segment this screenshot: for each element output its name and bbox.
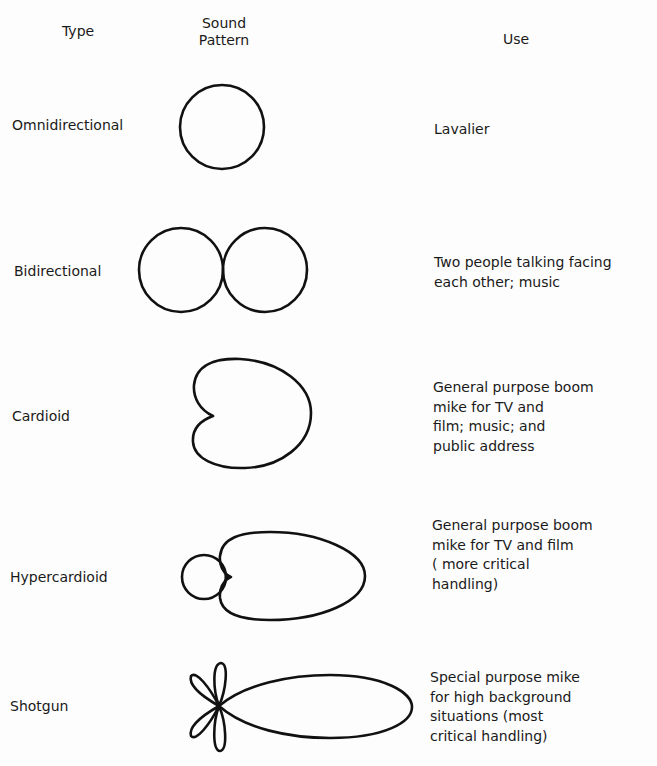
hypercardioid-pattern-icon [182, 532, 365, 620]
polar-patterns [0, 0, 657, 766]
bidirectional-pattern-icon [139, 228, 307, 312]
omnidirectional-pattern-icon [180, 85, 264, 169]
shotgun-pattern-icon [191, 663, 412, 751]
cardioid-pattern-icon [193, 359, 311, 468]
